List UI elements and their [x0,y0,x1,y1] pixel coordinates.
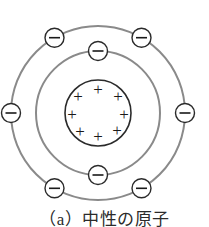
proton-plus-icon: + [75,122,85,141]
proton-plus-icon: + [73,87,83,106]
electron-outer-left [2,104,21,123]
figure-caption: （a）中性の原子 [0,210,209,227]
figure-screenshot: + + + + + + + + [0,0,209,227]
electron-outer-lower-right [132,179,151,198]
proton-plus-icon: + [112,121,122,140]
electron-outer-right [176,104,195,123]
atom-diagram: + + + + + + + + [0,0,209,227]
electron-inner-bottom [89,166,108,185]
electron-outer-upper-right [132,28,151,47]
proton-plus-icon: + [93,80,103,99]
atom-diagram-svg: + + + + + + + + [0,0,209,227]
proton-plus-icon: + [93,127,103,146]
electron-outer-lower-left [45,179,64,198]
proton-plus-icon: + [113,87,123,106]
electron-outer-upper-left [45,28,64,47]
electron-inner-top [89,42,108,61]
